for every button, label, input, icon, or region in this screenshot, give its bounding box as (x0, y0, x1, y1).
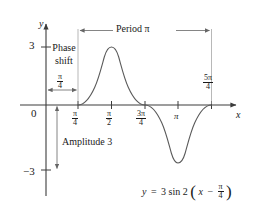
phase-shift-line1: Phase (49, 43, 79, 53)
amplitude-annotation-label: Amplitude 3 (62, 137, 112, 147)
x-tick-label-pi-over-4: π 4 (72, 110, 78, 127)
y-tick-label-3: 3 (29, 40, 35, 51)
trig-graph-figure: y x 0 3 −3 π 4 π 2 3π 4 π 5π 4 Period π … (0, 0, 253, 208)
x-tick-3pi4-denominator: 4 (136, 119, 146, 127)
x-tick-label-pi: π (174, 112, 179, 121)
equation-close-paren: ) (226, 185, 232, 199)
equation-open-paren: ( (190, 185, 196, 199)
y-axis-label: y (39, 19, 43, 29)
phase-shift-denominator: 4 (57, 82, 63, 90)
equation-rhs-prefix: 3 sin 2 (161, 187, 188, 197)
origin-label: 0 (31, 108, 37, 119)
equation-lhs: y (142, 187, 146, 197)
phase-shift-value: π 4 (57, 73, 63, 90)
equation-minus: − (207, 187, 213, 197)
phase-shift-line2: shift (49, 56, 79, 66)
x-tick-label-5pi-over-4: 5π 4 (203, 74, 213, 91)
equation-label: y = 3 sin 2 ( x − π 4 ) (142, 183, 232, 200)
x-tick-pi4-denominator: 4 (72, 119, 78, 127)
period-annotation-label: Period π (116, 24, 150, 34)
equation-frac-denominator: 4 (218, 192, 224, 200)
phase-shift-annotation-label: Phase shift (49, 43, 79, 66)
x-tick-label-3pi-over-4: 3π 4 (136, 110, 146, 127)
equation-equals: = (151, 187, 157, 197)
y-tick-label-neg3: −3 (23, 166, 35, 177)
x-axis-label: x (236, 110, 240, 120)
x-tick-pi2-denominator: 2 (106, 119, 112, 127)
equation-variable: x (198, 187, 202, 197)
x-tick-label-pi-over-2: π 2 (106, 110, 112, 127)
equation-fraction: π 4 (218, 183, 224, 200)
x-tick-5pi4-denominator: 4 (203, 83, 213, 91)
